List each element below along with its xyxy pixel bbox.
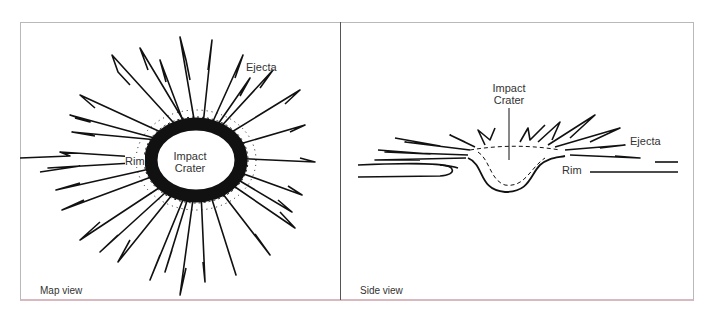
side-ejecta-label: Ejecta: [630, 135, 661, 147]
side-view-crater-drawing: [0, 0, 713, 319]
side-view-caption: Side view: [360, 285, 403, 296]
side-crater-label-line1: Impact: [483, 82, 535, 94]
side-rim-label: Rim: [562, 164, 582, 176]
side-crater-label-line2: Crater: [483, 94, 535, 106]
side-crater-label: Impact Crater: [483, 82, 535, 106]
